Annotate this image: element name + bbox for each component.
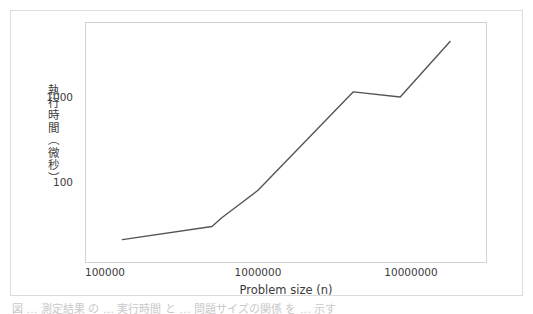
data-series-line	[122, 41, 450, 239]
y-tick-label-1000: 1000	[0, 91, 78, 103]
x-tick-label-10000000: 10000000	[384, 266, 437, 278]
plot-canvas	[85, 22, 487, 263]
x-tick-label-1000000: 1000000	[235, 266, 282, 278]
y-tick-label-100: 100	[0, 176, 78, 188]
figure-caption: 図 … 測定結果 の … 実行時間 と … 問題サイズの関係 を … 示す	[12, 303, 521, 314]
x-tick-label-100000: 100000	[85, 266, 125, 278]
x-axis-label: Problem size (n)	[85, 283, 487, 297]
figure-root: 執行時間（微秒） 1000 100 100000 1000000 1000000…	[0, 0, 533, 314]
